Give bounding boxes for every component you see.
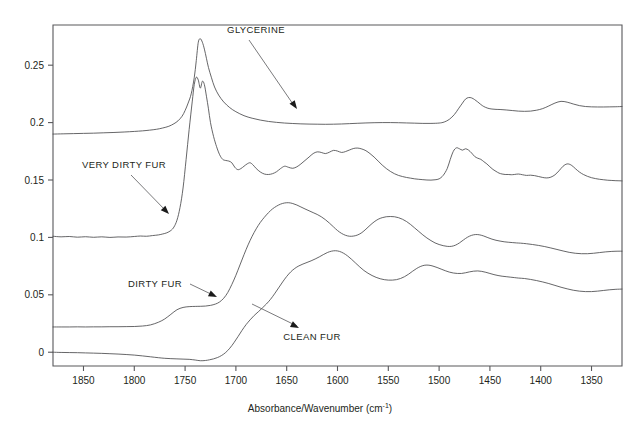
x-tick-label: 1500 <box>428 375 451 386</box>
x-axis-title-base: Absorbance/Wavenumber (cm <box>248 403 383 414</box>
x-axis-title-tail: ) <box>389 403 392 414</box>
x-tick-label: 1850 <box>72 375 95 386</box>
annotation-label-dirty-fur: DIRTY FUR <box>128 278 182 289</box>
chart-background <box>0 0 640 437</box>
y-tick-label: 0.2 <box>30 117 44 128</box>
x-tick-label: 1600 <box>326 375 349 386</box>
x-tick-label: 1800 <box>123 375 146 386</box>
x-tick-label: 1350 <box>580 375 603 386</box>
spectra-chart: 00.050.10.150.20.25 18501800175017001650… <box>0 0 640 437</box>
x-axis-title: Absorbance/Wavenumber (cm-1) <box>248 402 392 414</box>
y-tick-label: 0.1 <box>30 232 44 243</box>
y-tick-label: 0.25 <box>25 60 45 71</box>
annotation-label-glycerine: GLYCERINE <box>227 24 285 35</box>
x-tick-label: 1700 <box>225 375 248 386</box>
x-tick-label: 1400 <box>530 375 553 386</box>
x-tick-label: 1750 <box>174 375 197 386</box>
chart-figure: 00.050.10.150.20.25 18501800175017001650… <box>0 0 640 437</box>
x-tick-label: 1550 <box>377 375 400 386</box>
y-tick-label: 0.05 <box>25 289 45 300</box>
annotation-label-very-dirty-fur: VERY DIRTY FUR <box>82 159 166 170</box>
x-tick-label: 1450 <box>479 375 502 386</box>
x-tick-label: 1650 <box>276 375 299 386</box>
annotation-label-clean-fur: CLEAN FUR <box>283 331 340 342</box>
y-tick-label: 0 <box>38 347 44 358</box>
y-tick-label: 0.15 <box>25 175 45 186</box>
